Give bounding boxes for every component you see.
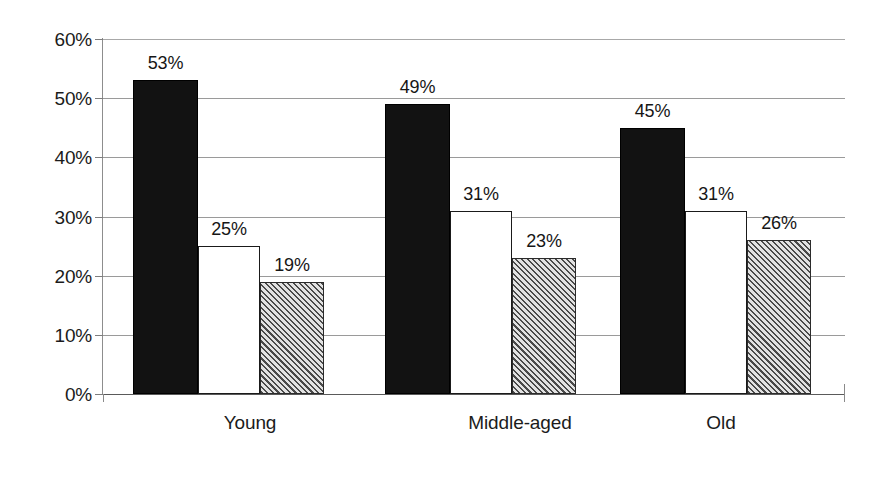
bar-old-series-2 (685, 211, 747, 394)
y-axis-label: 30% (34, 207, 92, 226)
y-axis-label: 0% (34, 385, 92, 404)
gridline-40 (103, 157, 845, 158)
bar-value-label: 19% (248, 256, 336, 274)
bar-middle-aged-series-3 (512, 258, 576, 394)
plot-area: 53%25%19%49%31%23%45%31%26% (103, 39, 845, 394)
x-axis-category-label: Old (601, 413, 841, 433)
bar-value-label: 23% (500, 232, 588, 250)
bar-value-label: 49% (373, 78, 462, 96)
gridline-60 (103, 39, 845, 40)
bar-middle-aged-series-1 (385, 104, 450, 394)
y-tick-mark (95, 217, 103, 218)
bar-value-label: 31% (438, 185, 524, 203)
bar-value-label: 31% (673, 185, 759, 203)
y-tick-mark (95, 98, 103, 99)
y-tick-mark (95, 394, 103, 395)
y-tick-mark (95, 39, 103, 40)
y-axis-label: 40% (34, 148, 92, 167)
x-axis-tick-start (103, 394, 104, 402)
y-axis-label: 60% (34, 30, 92, 49)
y-axis-label: 50% (34, 89, 92, 108)
bar-young-series-3 (260, 282, 324, 394)
y-tick-mark (95, 335, 103, 336)
y-tick-mark (95, 276, 103, 277)
bar-value-label: 25% (186, 220, 272, 238)
bar-value-label: 26% (735, 214, 823, 232)
x-axis-category-label: Young (130, 413, 370, 433)
bar-old-series-3 (747, 240, 811, 394)
y-tick-mark (95, 157, 103, 158)
plot-right-edge (844, 384, 845, 394)
bar-old-series-1 (620, 128, 685, 394)
y-axis-tick-labels: 0%10%20%30%40%50%60% (34, 0, 92, 480)
y-axis-label: 10% (34, 325, 92, 344)
x-axis-tick-end (844, 394, 845, 402)
bar-value-label: 53% (121, 54, 210, 72)
bar-chart: 0%10%20%30%40%50%60% 53%25%19%49%31%23%4… (0, 0, 882, 480)
gridline-50 (103, 98, 845, 99)
gridline-0 (103, 394, 845, 395)
y-axis-label: 20% (34, 266, 92, 285)
bar-value-label: 45% (608, 102, 697, 120)
